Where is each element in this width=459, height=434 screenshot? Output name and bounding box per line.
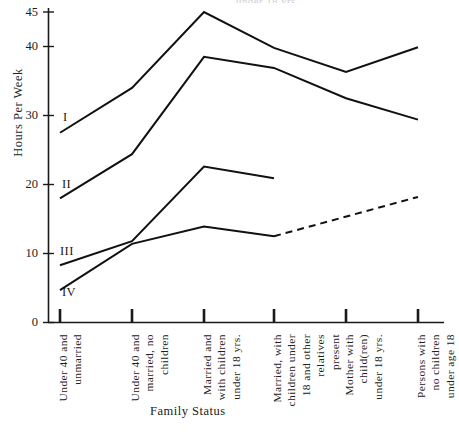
series-label-II: II (62, 177, 71, 192)
series-label-IV: IV (62, 285, 76, 300)
series-line-IV-dashed (274, 197, 418, 236)
x-axis-ticks (60, 309, 418, 322)
axes (43, 8, 444, 323)
x-category-line: under age 18 (445, 334, 456, 398)
x-category-line: under 18 yrs. (231, 334, 242, 400)
series-label-III: III (60, 244, 74, 259)
x-category-line: Persons with (416, 334, 427, 398)
x-category-line: Married and (202, 334, 213, 395)
x-category-line: married, no (144, 334, 155, 391)
series-label-I: I (63, 110, 68, 125)
x-axis-title: Family Status (150, 404, 226, 419)
x-category-line: under 18 yrs. (373, 334, 384, 400)
series-line-IV (60, 227, 274, 290)
x-category-line: present (330, 334, 341, 370)
x-category-line: child(ren) (358, 334, 369, 383)
series-line-II (60, 57, 418, 198)
x-category-line: Mother with (344, 334, 355, 396)
x-category-line: Under 40 and (130, 334, 141, 401)
series-line-III (60, 167, 274, 266)
x-category-line: children (159, 334, 170, 375)
x-category-line: relatives (315, 334, 326, 377)
x-category-line: 18 and other (301, 334, 312, 396)
x-category-line: Under 40 and (58, 334, 69, 401)
series-line-I (60, 12, 418, 133)
series-lines (60, 12, 418, 290)
x-category-line: Married, with (272, 334, 283, 402)
x-category-line: with children (216, 334, 227, 400)
x-category-line: children under (286, 334, 297, 406)
x-category-line: unmarried (72, 334, 83, 385)
x-category-line: no children (430, 334, 441, 391)
